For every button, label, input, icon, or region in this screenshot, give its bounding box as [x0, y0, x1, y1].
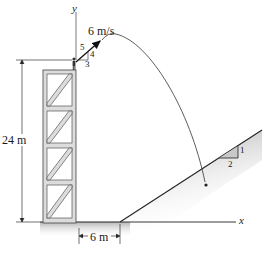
offset-label: 6 m: [90, 231, 108, 243]
incline-slope-run: 2: [228, 160, 233, 169]
x-axis-label: x: [239, 215, 244, 226]
launch-slope-rise: 4: [90, 50, 95, 59]
landing-point: [204, 183, 207, 186]
y-axis-label: y: [72, 3, 77, 14]
incline-slope-rise: 1: [240, 146, 245, 155]
person-figure: [72, 57, 75, 70]
incline-surface: [120, 130, 262, 222]
trajectory-path: [102, 34, 205, 182]
diagram-canvas: [0, 0, 269, 258]
tower-height-label: 24 m: [2, 134, 26, 146]
launch-slope-run: 3: [85, 60, 90, 69]
tower-truss: [43, 70, 76, 223]
velocity-label: 6 m/s: [88, 25, 114, 37]
launch-slope-hyp: 5: [80, 43, 85, 52]
